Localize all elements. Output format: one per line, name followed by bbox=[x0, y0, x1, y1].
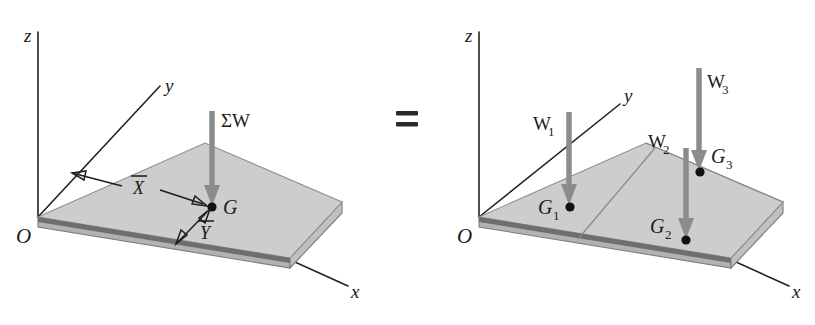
left-origin-label: O bbox=[16, 224, 31, 248]
right-plate-top-face bbox=[479, 143, 783, 258]
force-label-W3-group: W 3 bbox=[707, 71, 729, 97]
centroid-label-G3-subscript: 3 bbox=[726, 157, 733, 172]
force-label-W2-subscript: 2 bbox=[663, 142, 670, 157]
left-x-axis-label: x bbox=[350, 281, 360, 302]
force-arrow-W3 bbox=[691, 68, 707, 171]
x-bar-label: X bbox=[132, 178, 145, 198]
right-y-axis-label: y bbox=[622, 85, 633, 106]
centroid-label-G1-subscript: 1 bbox=[553, 208, 560, 223]
resultant-weight-label: ΣW bbox=[221, 110, 250, 131]
figure-canvas: ΣW G X Y bbox=[0, 0, 815, 325]
centroid-label-G3: G bbox=[711, 145, 726, 167]
centroid-G-label: G bbox=[223, 196, 238, 218]
centroid-label-G2: G bbox=[650, 215, 665, 237]
left-z-axis-label: z bbox=[23, 25, 32, 46]
force-label-W1-subscript: 1 bbox=[548, 124, 555, 139]
centroid-G3-dot bbox=[695, 167, 704, 176]
centroid-label-G2-subscript: 2 bbox=[665, 227, 672, 242]
right-z-axis-label: z bbox=[464, 25, 473, 46]
force-label-W3-subscript: 3 bbox=[722, 82, 729, 97]
centroid-label-G3-group: G 3 bbox=[711, 145, 733, 172]
force-label-W1-group: W 1 bbox=[533, 113, 555, 139]
equals-sign bbox=[396, 111, 418, 127]
centroid-G2-dot bbox=[681, 235, 690, 244]
left-y-axis-label: y bbox=[163, 75, 174, 96]
right-origin-label: O bbox=[457, 224, 472, 248]
centroid-G1-dot bbox=[565, 202, 574, 211]
statics-resultant-weight-figure: ΣW G X Y bbox=[0, 0, 815, 325]
centroid-label-G1: G bbox=[538, 196, 553, 218]
left-diagram-group: ΣW G X Y bbox=[16, 25, 360, 302]
right-x-axis-label: x bbox=[791, 281, 801, 302]
right-diagram-group: W 1 W 2 W 3 G bbox=[457, 25, 801, 302]
